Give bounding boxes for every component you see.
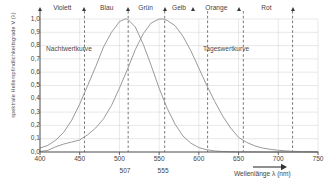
band-label-violett: Violett [53, 5, 71, 12]
band-label-blau: Blau [100, 5, 113, 12]
band-marker-2 [126, 7, 130, 11]
x-axis-title: Wellenlänge λ (nm) [234, 171, 291, 178]
x-tick-1: 450 [67, 156, 93, 163]
y-tick-2: 0,2 [18, 122, 40, 129]
band-marker-6 [291, 7, 295, 11]
y-tick-9: 0,9 [18, 29, 40, 36]
y-tick-8: 0,8 [18, 42, 40, 49]
x-tick-7: 750 [305, 156, 328, 163]
y-tick-3: 0,3 [18, 109, 40, 116]
x-annotation-555: 555 [150, 168, 176, 175]
band-label-rot: Rot [261, 5, 271, 12]
x-tick-6: 700 [265, 156, 291, 163]
band-marker-3 [163, 7, 167, 11]
band-label-gelb: Gelb [172, 5, 186, 12]
band-marker-1 [82, 7, 86, 11]
y-tick-4: 0,4 [18, 95, 40, 102]
series-label-tageswertkurve: Tageswertkurve [203, 46, 249, 53]
y-tick-1: 0,1 [18, 135, 40, 142]
band-marker-4 [191, 7, 195, 11]
band-marker-5 [237, 7, 241, 11]
x-tick-0: 400 [27, 156, 53, 163]
y-tick-6: 0,6 [18, 69, 40, 76]
y-tick-10: 1,0 [18, 16, 40, 23]
y-tick-5: 0,5 [18, 82, 40, 89]
x-annotation-507: 507 [112, 168, 138, 175]
x-tick-3: 550 [146, 156, 172, 163]
y-tick-7: 0,7 [18, 56, 40, 63]
x-tick-2: 500 [106, 156, 132, 163]
spectral-luminous-efficiency-chart: spektrale Hellempfindlichkeitsgrade V (λ… [0, 0, 328, 186]
series-label-nachtwertkurve: Nachtwertkurve [46, 46, 92, 53]
x-tick-4: 600 [186, 156, 212, 163]
band-label-grün: Grün [138, 5, 153, 12]
band-label-orange: Orange [205, 5, 227, 12]
band-marker-0 [38, 7, 42, 11]
x-tick-5: 650 [226, 156, 252, 163]
